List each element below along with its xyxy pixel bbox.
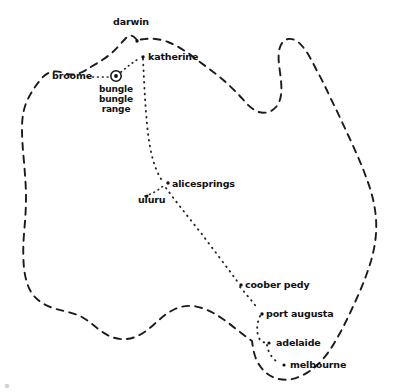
label-darwin: darwin: [113, 16, 149, 27]
label-katherine: katherine: [148, 51, 198, 62]
label-bungle-line-3: range: [102, 104, 131, 114]
marker-darwin[interactable]: [135, 39, 138, 42]
corner-smudge-mark: [5, 384, 9, 388]
label-bungle-line-1: bungle: [99, 84, 133, 94]
route-portaugusta-to-adelaide: [257, 316, 267, 342]
route-cooberpedy-to-portaugusta: [240, 287, 258, 309]
marker-cooberpedy[interactable]: [239, 283, 242, 286]
marker-bungle-bungle-dot: [114, 74, 118, 78]
marker-portaugusta[interactable]: [260, 312, 263, 315]
label-alicesprings: alicesprings: [172, 178, 235, 189]
australia-coastline-path: [22, 36, 376, 380]
label-uluru: uluru: [138, 194, 165, 205]
label-cooberpedy: coober pedy: [245, 279, 310, 290]
label-bungle-line-2: bungle: [99, 94, 133, 104]
label-melbourne: melbourne: [290, 359, 346, 370]
label-portaugusta: port augusta: [266, 308, 333, 319]
australia-map-drawing: darwin katherine broome bungle bungle ra…: [0, 0, 404, 392]
label-adelaide: adelaide: [276, 337, 321, 348]
route-katherine-to-alicesprings: [143, 59, 161, 179]
map-canvas: darwin katherine broome bungle bungle ra…: [0, 0, 404, 392]
marker-melbourne[interactable]: [282, 363, 285, 366]
coastline-group: [22, 36, 376, 380]
corner-artifact-group: [5, 384, 9, 388]
label-broome: broome: [52, 70, 92, 81]
marker-adelaide[interactable]: [267, 341, 270, 344]
route-bungle-to-katherine: [121, 58, 140, 72]
city-labels-group: darwin katherine broome bungle bungle ra…: [52, 16, 346, 370]
route-alicesprings-to-cooberpedy: [166, 188, 237, 281]
marker-alicesprings[interactable]: [166, 181, 169, 184]
marker-katherine[interactable]: [141, 55, 144, 58]
